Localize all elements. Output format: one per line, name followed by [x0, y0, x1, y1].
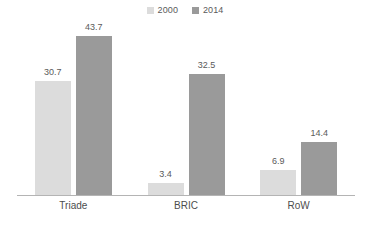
x-axis-label-row: RoW — [242, 200, 355, 212]
bar-groups: 30.7 43.7 3.4 32.5 — [17, 22, 355, 196]
legend-swatch-icon-2000 — [147, 7, 154, 14]
x-axis-line — [17, 195, 355, 196]
legend-label-2014: 2014 — [203, 6, 223, 15]
chart-legend: 2000 2014 — [0, 3, 370, 17]
bar-value-bric-2000: 3.4 — [159, 169, 172, 180]
bar-slot-triade-2000: 30.7 — [35, 22, 71, 196]
bar-bric-2014[interactable] — [189, 74, 225, 196]
bar-slot-bric-2014: 32.5 — [189, 22, 225, 196]
bar-slot-bric-2000: 3.4 — [148, 22, 184, 196]
bar-value-row-2000: 6.9 — [272, 156, 285, 167]
bar-row-2014[interactable] — [301, 142, 337, 196]
plot-area: 30.7 43.7 3.4 32.5 — [17, 22, 355, 196]
bar-row-2000[interactable] — [260, 170, 296, 196]
x-axis-label-triade: Triade — [17, 200, 130, 212]
bar-chart: 2000 2014 30.7 43.7 3. — [0, 0, 370, 230]
bar-group-row: 6.9 14.4 — [242, 22, 355, 196]
bar-value-row-2014: 14.4 — [310, 128, 328, 139]
bar-triade-2014[interactable] — [76, 36, 112, 196]
legend-swatch-icon-2014 — [192, 7, 199, 14]
x-axis-label-bric: BRIC — [130, 200, 243, 212]
bar-slot-row-2000: 6.9 — [260, 22, 296, 196]
bar-value-bric-2014: 32.5 — [198, 60, 216, 71]
legend-item-2014[interactable]: 2014 — [192, 6, 223, 15]
x-axis-tick-labels: Triade BRIC RoW — [17, 200, 355, 212]
bar-group-triade: 30.7 43.7 — [17, 22, 130, 196]
bar-group-bric: 3.4 32.5 — [130, 22, 243, 196]
legend-label-2000: 2000 — [158, 6, 178, 15]
legend-item-2000[interactable]: 2000 — [147, 6, 178, 15]
bar-slot-triade-2014: 43.7 — [76, 22, 112, 196]
bar-value-triade-2014: 43.7 — [85, 22, 103, 33]
bar-slot-row-2014: 14.4 — [301, 22, 337, 196]
bar-triade-2000[interactable] — [35, 81, 71, 196]
bar-value-triade-2000: 30.7 — [44, 67, 62, 78]
